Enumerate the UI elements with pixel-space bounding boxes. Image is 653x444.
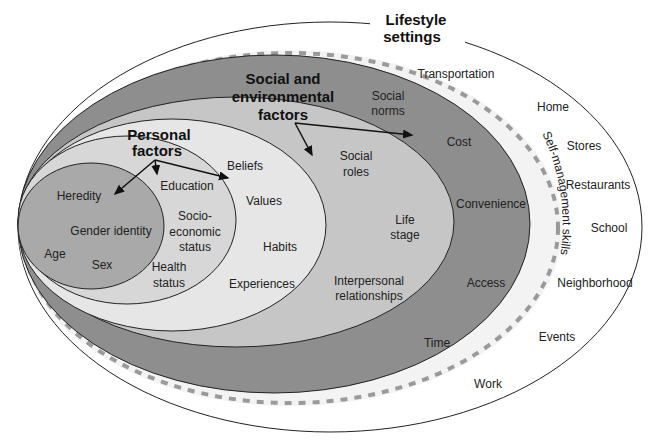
habits-label: Habits xyxy=(263,240,297,254)
health-status-line2: status xyxy=(153,276,185,290)
interpersonal-line2: relationships xyxy=(335,289,402,303)
setting-stores: Stores xyxy=(567,139,602,153)
social-norms-line1: Social xyxy=(372,89,405,103)
socioeconomic-line3: status xyxy=(179,240,211,254)
setting-school: School xyxy=(591,221,628,235)
setting-transportation: Transportation xyxy=(418,67,495,81)
interpersonal-line1: Interpersonal xyxy=(334,274,404,288)
setting-neighborhood: Neighborhood xyxy=(557,276,632,290)
social-roles-line1: Social xyxy=(340,149,373,163)
setting-events: Events xyxy=(539,330,576,344)
sex-label: Sex xyxy=(92,258,113,272)
lifestyle-diagram: Lifestyle settings Transportation Home S… xyxy=(0,0,653,444)
setting-home: Home xyxy=(537,100,569,114)
life-stage-line1: Life xyxy=(395,213,415,227)
beliefs-label: Beliefs xyxy=(227,159,263,173)
personal-heading-2: factors xyxy=(132,142,182,159)
health-status-line1: Health xyxy=(152,260,187,274)
title-line1: Lifestyle xyxy=(386,11,447,28)
social-env-heading-3: factors xyxy=(258,106,308,123)
social-roles-line2: roles xyxy=(343,165,369,179)
age-label: Age xyxy=(44,247,66,261)
socioeconomic-line1: Socio- xyxy=(178,209,212,223)
social-env-heading-1: Social and xyxy=(245,70,320,87)
education-label: Education xyxy=(160,179,213,193)
life-stage-line2: stage xyxy=(390,228,420,242)
gender-identity-label: Gender identity xyxy=(70,224,151,238)
title-line2: settings xyxy=(383,28,441,45)
values-label: Values xyxy=(246,194,282,208)
setting-work: Work xyxy=(474,377,503,391)
convenience-label: Convenience xyxy=(456,197,526,211)
setting-restaurants: Restaurants xyxy=(566,178,631,192)
social-norms-line2: norms xyxy=(371,104,404,118)
heredity-label: Heredity xyxy=(57,189,102,203)
social-env-heading-2: environmental xyxy=(232,88,335,105)
socioeconomic-line2: economic xyxy=(169,225,220,239)
cost-label: Cost xyxy=(447,135,472,149)
experiences-label: Experiences xyxy=(229,277,295,291)
time-label: Time xyxy=(424,336,451,350)
personal-heading-1: Personal xyxy=(127,126,190,143)
access-label: Access xyxy=(467,276,506,290)
